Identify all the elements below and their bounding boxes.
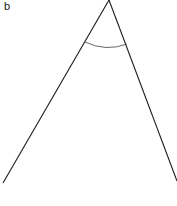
diagram-canvas: b — [0, 0, 177, 206]
angle-diagram — [0, 0, 177, 206]
right-ray — [109, 0, 177, 181]
left-ray — [3, 0, 109, 183]
angle-arc — [85, 42, 127, 48]
